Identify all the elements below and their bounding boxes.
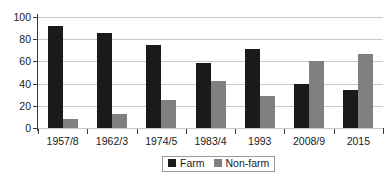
x-axis-tick [38,129,39,134]
bar-non-farm-6 [358,54,373,128]
x-axis-category-label: 1962/3 [96,136,128,147]
y-axis-tick-label: 60 [1,56,31,67]
y-axis-tick [33,39,38,40]
x-axis-tick [137,129,138,134]
x-axis-category-label: 1993 [248,136,271,147]
bar-farm-1 [97,33,112,128]
bar-farm-5 [294,84,309,128]
y-axis-tick-label: 100 [1,12,31,23]
x-axis-category-label: 2015 [347,136,370,147]
legend-label-farm: Farm [180,158,205,169]
bar-non-farm-0 [63,119,78,128]
bar-farm-2 [146,45,161,128]
bar-farm-3 [196,63,211,128]
bar-farm-0 [48,26,63,128]
legend-item-farm: Farm [168,158,205,169]
y-axis-tick-label: 80 [1,34,31,45]
x-axis-category-label: 1983/4 [194,136,226,147]
bar-farm-4 [245,49,260,128]
x-axis-category-label: 1957/8 [47,136,79,147]
x-axis-tick [383,129,384,134]
y-axis-tick [33,17,38,18]
y-axis-labels: 020406080100 [0,0,31,179]
legend-label-non-farm: Non-farm [226,158,270,169]
legend-item-non-farm: Non-farm [214,158,270,169]
bar-non-farm-1 [112,114,127,128]
x-axis-tick [235,129,236,134]
x-axis-category-label: 2008/9 [293,136,325,147]
x-axis-category-label: 1974/5 [145,136,177,147]
y-axis-tick-label: 0 [1,123,31,134]
gridline [38,61,383,62]
gridline [38,17,383,18]
legend-swatch-farm-icon [168,159,176,167]
x-axis-tick [284,129,285,134]
x-axis-tick [87,129,88,134]
x-axis-tick [186,129,187,134]
x-axis-tick [334,129,335,134]
y-axis-tick [33,61,38,62]
y-axis-tick [33,84,38,85]
bar-non-farm-3 [211,81,226,128]
gridline [38,128,383,129]
bar-non-farm-4 [260,96,275,128]
bar-non-farm-2 [161,100,176,128]
plot-area [38,17,383,128]
chart-legend: Farm Non-farm [162,156,275,172]
gridline [38,39,383,40]
bar-farm-6 [343,90,358,128]
y-axis-tick [33,106,38,107]
legend-swatch-non-farm-icon [214,159,222,167]
y-axis-tick-label: 20 [1,101,31,112]
bar-chart: 020406080100 Farm Non-farm 1957/81962/31… [0,0,390,179]
bar-non-farm-5 [309,61,324,128]
y-axis-tick-label: 40 [1,79,31,90]
